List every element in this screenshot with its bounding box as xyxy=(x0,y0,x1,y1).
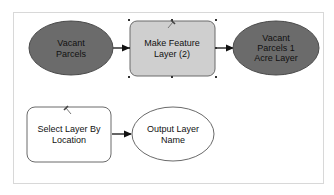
node-label-line: Vacant xyxy=(262,33,290,43)
node-label-line: Acre Layer xyxy=(254,53,298,63)
node-vacant-parcels-1-acre-layer[interactable]: Vacant Parcels 1 Acre Layer xyxy=(233,21,319,75)
node-select-layer-by-location[interactable]: Select Layer By Location xyxy=(27,106,111,162)
node-output-layer-name[interactable]: Output Layer Name xyxy=(132,107,214,161)
node-label-line: Parcels xyxy=(56,49,87,59)
node-label-line: Make Feature xyxy=(144,38,200,48)
node-label-line: Location xyxy=(52,135,86,145)
model-diagram: Vacant Parcels Make Feature Layer (2) Va… xyxy=(0,0,334,195)
node-label-line: Name xyxy=(161,135,185,145)
node-vacant-parcels[interactable]: Vacant Parcels xyxy=(29,21,113,75)
node-make-feature-layer[interactable]: Make Feature Layer (2) xyxy=(128,19,217,78)
node-label-line: Parcels 1 xyxy=(257,43,295,53)
node-label-line: Layer (2) xyxy=(154,49,190,59)
node-label-line: Vacant xyxy=(57,38,85,48)
node-label-line: Output Layer xyxy=(147,124,199,134)
node-label-line: Select Layer By xyxy=(37,124,101,134)
